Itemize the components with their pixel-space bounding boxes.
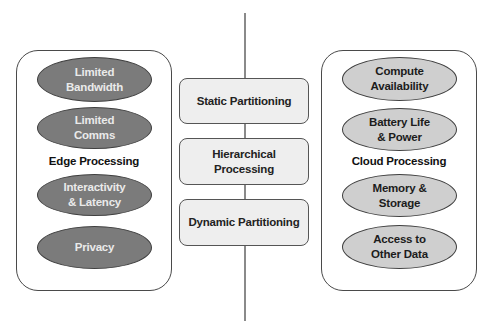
cloud-factor-battery-power: Battery Life& Power xyxy=(342,108,457,151)
cloud-factor-memory-storage: Memory &Storage xyxy=(342,174,457,217)
strategy-dynamic-partitioning: Dynamic Partitioning xyxy=(179,199,309,246)
cloud-factor-access-other-data: Access toOther Data xyxy=(342,225,457,269)
factor-line1: Access to xyxy=(373,233,426,245)
factor-line2: & Latency xyxy=(68,196,121,208)
cloud-processing-panel: ComputeAvailability Battery Life& Power … xyxy=(321,50,477,291)
edge-processing-label: Edge Processing xyxy=(17,155,171,167)
strategy-label: Dynamic Partitioning xyxy=(188,215,299,230)
cloud-factor-compute-availability: ComputeAvailability xyxy=(342,57,457,101)
factor-line2: Availability xyxy=(371,80,429,92)
strategy-static-partitioning: Static Partitioning xyxy=(179,78,309,124)
strategy-label-line2: Processing xyxy=(214,163,274,175)
factor-line2: Storage xyxy=(379,197,420,209)
edge-factor-interactivity-latency: Interactivity& Latency xyxy=(37,174,152,216)
cloud-processing-label: Cloud Processing xyxy=(322,155,476,167)
factor-line2: & Power xyxy=(377,131,422,143)
strategy-hierarchical-processing: HierarchicalProcessing xyxy=(179,138,309,185)
edge-processing-panel: LimitedBandwidth LimitedComms Edge Proce… xyxy=(16,50,172,291)
edge-factor-limited-comms: LimitedComms xyxy=(37,107,152,149)
factor-line2: Bandwidth xyxy=(66,81,123,93)
factor-line2: Comms xyxy=(74,129,115,141)
factor-line1: Privacy xyxy=(75,241,115,253)
strategy-label-line1: Hierarchical xyxy=(212,148,275,160)
factor-line1: Limited xyxy=(75,66,115,78)
factor-line1: Limited xyxy=(75,114,115,126)
factor-line1: Compute xyxy=(375,65,423,77)
factor-line2: Other Data xyxy=(371,248,428,260)
factor-line1: Interactivity xyxy=(64,181,126,193)
factor-line1: Battery Life xyxy=(369,116,430,128)
strategy-label: Static Partitioning xyxy=(197,94,292,109)
edge-factor-privacy: Privacy xyxy=(37,226,152,269)
edge-factor-limited-bandwidth: LimitedBandwidth xyxy=(37,57,152,102)
factor-line1: Memory & xyxy=(373,182,427,194)
